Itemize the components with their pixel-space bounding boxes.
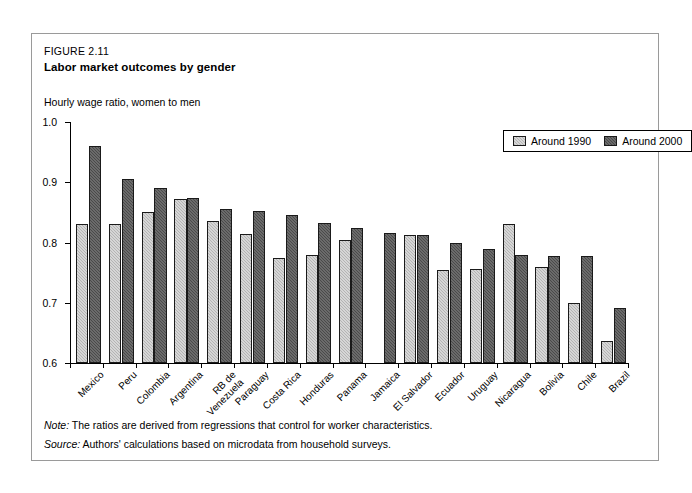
x-axis-tick bbox=[168, 363, 169, 368]
bar-around-2000 bbox=[450, 243, 462, 363]
x-axis-tick-label: Colombia bbox=[134, 369, 172, 407]
y-axis-tick-label: 0.6 bbox=[42, 358, 57, 369]
x-axis-tick bbox=[562, 363, 563, 368]
figure-note-text: The ratios are derived from regressions … bbox=[72, 419, 433, 431]
bar-around-1990 bbox=[535, 267, 547, 363]
x-axis-tick-label: Ecuador bbox=[433, 369, 467, 403]
y-axis-tick-label: 1.0 bbox=[42, 117, 57, 128]
bar-around-2000 bbox=[614, 308, 626, 363]
bar-around-2000 bbox=[515, 255, 527, 363]
legend-label-around-2000: Around 2000 bbox=[622, 135, 682, 147]
x-axis-tick bbox=[201, 363, 202, 368]
x-axis-tick bbox=[530, 363, 531, 368]
bar-group bbox=[339, 122, 364, 363]
bar-around-1990 bbox=[306, 255, 318, 363]
bar-group bbox=[437, 122, 462, 363]
x-axis-tick-label: Panama bbox=[335, 369, 369, 403]
plot-area: 0.60.70.80.91.0MexicoPeruColombiaArgenti… bbox=[70, 122, 628, 363]
figure-note-lead: Note: bbox=[44, 419, 69, 431]
x-axis-tick-label-line: Peru bbox=[116, 369, 139, 392]
x-axis-tick-label: Honduras bbox=[298, 369, 336, 407]
x-axis-tick-label-line: Bolivia bbox=[537, 369, 566, 398]
figure-title: Labor market outcomes by gender bbox=[44, 61, 236, 73]
y-axis-line bbox=[70, 122, 71, 363]
x-axis-tick bbox=[333, 363, 334, 368]
x-axis-tick bbox=[103, 363, 104, 368]
y-axis-tick bbox=[65, 303, 70, 304]
x-axis-tick-label: Mexico bbox=[76, 369, 106, 399]
bar-around-2000 bbox=[220, 209, 232, 363]
bar-around-1990 bbox=[568, 303, 580, 363]
bar-around-1990 bbox=[339, 240, 351, 364]
bar-around-1990 bbox=[76, 224, 88, 363]
x-axis-tick-label-line: Chile bbox=[575, 369, 599, 393]
x-axis-tick-label-line: Honduras bbox=[298, 369, 336, 407]
bar-group bbox=[535, 122, 560, 363]
bar-group bbox=[503, 122, 528, 363]
bar-group bbox=[109, 122, 134, 363]
bar-group bbox=[273, 122, 298, 363]
bar-around-1990 bbox=[404, 235, 416, 363]
bar-around-1990 bbox=[174, 199, 186, 363]
bar-around-2000 bbox=[548, 256, 560, 363]
bar-around-1990 bbox=[437, 270, 449, 363]
bar-around-2000 bbox=[581, 256, 593, 363]
x-axis-tick-label: Brazil bbox=[606, 369, 631, 394]
bar-around-1990 bbox=[207, 221, 219, 363]
x-axis-tick-label: Bolivia bbox=[537, 369, 566, 398]
bar-group bbox=[76, 122, 101, 363]
bar-around-2000 bbox=[187, 198, 199, 363]
bar-group bbox=[207, 122, 232, 363]
bar-around-1990 bbox=[142, 212, 154, 363]
bar-around-1990 bbox=[601, 341, 613, 363]
y-axis-caption: Hourly wage ratio, women to men bbox=[44, 96, 200, 108]
x-axis-tick-label: Peru bbox=[116, 369, 139, 392]
bar-around-2000 bbox=[384, 233, 396, 363]
x-axis-tick-label-line: Ecuador bbox=[433, 369, 467, 403]
bar-around-2000 bbox=[122, 179, 134, 363]
bar-around-1990 bbox=[470, 269, 482, 363]
figure-source: Source: Authors' calculations based on m… bbox=[44, 438, 391, 450]
bar-around-1990 bbox=[503, 224, 515, 363]
bar-around-2000 bbox=[351, 228, 363, 363]
bar-group bbox=[306, 122, 331, 363]
figure-number: FIGURE 2.11 bbox=[44, 45, 109, 57]
figure-source-text: Authors' calculations based on microdata… bbox=[83, 438, 391, 450]
x-axis-tick-label-line: Brazil bbox=[606, 369, 631, 394]
x-axis-tick bbox=[464, 363, 465, 368]
x-axis-tick bbox=[267, 363, 268, 368]
y-axis-tick bbox=[65, 122, 70, 123]
x-axis-tick-label-line: Mexico bbox=[76, 369, 106, 399]
y-axis-tick-label: 0.7 bbox=[42, 298, 57, 309]
y-axis-tick-label: 0.9 bbox=[42, 177, 57, 188]
bar-around-1990 bbox=[240, 234, 252, 363]
x-axis-tick bbox=[595, 363, 596, 368]
x-axis-tick bbox=[497, 363, 498, 368]
bar-around-1990 bbox=[109, 224, 121, 363]
bar-around-2000 bbox=[286, 215, 298, 363]
x-axis-tick bbox=[365, 363, 366, 368]
bar-around-2000 bbox=[253, 211, 265, 363]
x-axis-tick bbox=[300, 363, 301, 368]
y-axis-tick bbox=[65, 182, 70, 183]
bar-around-2000 bbox=[154, 188, 166, 363]
x-axis-tick bbox=[431, 363, 432, 368]
bar-group bbox=[174, 122, 199, 363]
bar-around-2000 bbox=[483, 249, 495, 363]
bar-group bbox=[601, 122, 626, 363]
bar-around-2000 bbox=[417, 235, 429, 363]
bar-chart-plot: 0.60.70.80.91.0MexicoPeruColombiaArgenti… bbox=[70, 122, 628, 363]
bar-around-2000 bbox=[89, 146, 101, 363]
bar-around-2000 bbox=[318, 223, 330, 363]
y-axis-tick-label: 0.8 bbox=[42, 237, 57, 248]
x-axis-tick bbox=[70, 363, 71, 368]
bar-group bbox=[240, 122, 265, 363]
bar-group bbox=[142, 122, 167, 363]
x-axis-tick bbox=[398, 363, 399, 368]
x-axis-tick bbox=[628, 363, 629, 368]
figure-note: Note: The ratios are derived from regres… bbox=[44, 419, 432, 431]
bar-group bbox=[371, 122, 396, 363]
bar-group bbox=[404, 122, 429, 363]
x-axis-tick-label-line: Colombia bbox=[134, 369, 172, 407]
